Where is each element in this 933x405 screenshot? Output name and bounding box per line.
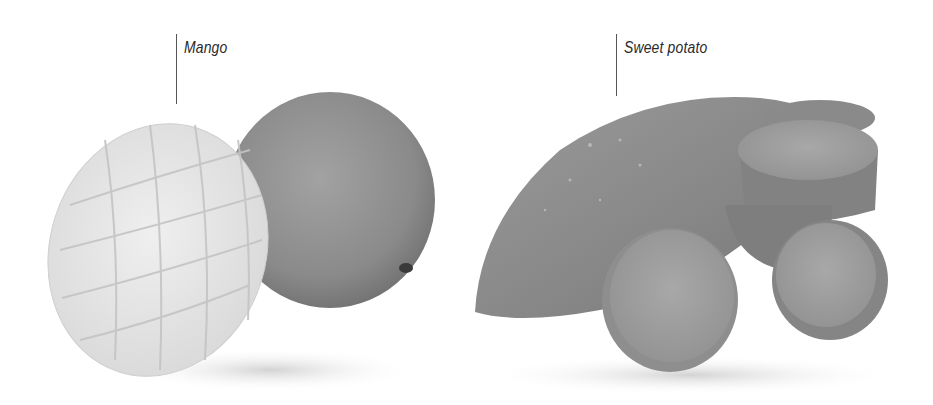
sweet-potato-illustration bbox=[475, 97, 900, 395]
sweet-potato-slice bbox=[738, 120, 878, 180]
sweet-potato-label: Sweet potato bbox=[624, 38, 707, 58]
mango-label: Mango bbox=[184, 38, 227, 58]
sweet-potato-leader-line bbox=[616, 34, 617, 96]
mango-illustration bbox=[16, 92, 435, 405]
illustration bbox=[0, 0, 933, 405]
mango-leader-line bbox=[176, 34, 177, 104]
